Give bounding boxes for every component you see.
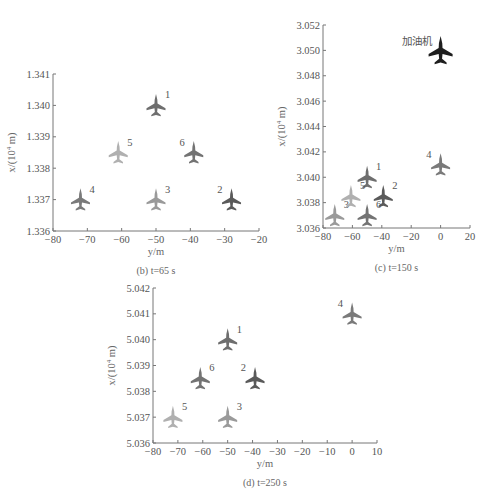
aircraft-label: 1 [376, 161, 381, 172]
aircraft-icon [429, 36, 453, 64]
aircraft-icon [246, 367, 265, 389]
y-tick-label: 3.042 [296, 146, 320, 157]
aircraft-icon [163, 406, 182, 428]
x-tick-label: −70 [79, 234, 95, 245]
x-axis-label: y/m [388, 243, 404, 254]
aircraft-label: 1 [237, 324, 242, 335]
x-tick-label: −50 [219, 446, 235, 457]
chart-panel-b: 1.3361.3371.3381.3391.3401.341−80−70−60−… [5, 69, 267, 278]
aircraft-icon [147, 94, 166, 116]
y-tick-label: 3.040 [296, 172, 320, 183]
chart-panel-d: 5.0365.0375.0385.0395.0405.0415.042−80−7… [105, 283, 382, 490]
aircraft-icon [358, 204, 377, 226]
x-tick-label: 0 [349, 446, 354, 457]
x-tick-label: −80 [45, 234, 61, 245]
x-tick-label: −20 [294, 446, 310, 457]
figure-canvas: 1.3361.3371.3381.3391.3401.341−80−70−60−… [0, 0, 489, 499]
x-tick-label: −70 [170, 446, 186, 457]
y-tick-label: 3.048 [296, 70, 320, 81]
aircraft-label: 5 [127, 137, 132, 148]
x-tick-label: −10 [319, 446, 335, 457]
aircraft-label: 5 [360, 180, 365, 191]
panel-caption: (b) t=65 s [137, 265, 176, 277]
aircraft-icon [218, 406, 237, 428]
aircraft-label: 4 [89, 184, 95, 195]
aircraft-icon [218, 328, 237, 350]
y-tick-label: 5.037 [126, 412, 150, 423]
aircraft-label: 5 [182, 401, 187, 412]
x-tick-label: −60 [344, 231, 360, 242]
aircraft-label: 加油机 [402, 35, 433, 47]
y-tick-label: 5.039 [126, 360, 150, 371]
x-tick-label: −60 [113, 234, 129, 245]
aircraft-label: 4 [426, 149, 432, 160]
y-tick-label: 5.041 [126, 308, 150, 319]
aircraft-label: 2 [241, 362, 246, 373]
x-tick-label: 0 [438, 231, 443, 242]
y-axis-label: x/(104 m) [5, 132, 18, 172]
y-tick-label: 1.338 [26, 163, 50, 174]
y-tick-label: 1.340 [26, 100, 50, 111]
x-tick-label: 10 [372, 446, 383, 457]
x-tick-label: −40 [244, 446, 260, 457]
aircraft-icon [71, 188, 90, 210]
x-tick-label: −80 [145, 446, 161, 457]
aircraft-icon [147, 188, 166, 210]
panel-caption: (d) t=250 s [243, 477, 287, 489]
aircraft-icon [184, 141, 203, 163]
aircraft-label: 6 [209, 362, 214, 373]
aircraft-label: 6 [376, 199, 381, 210]
panel-caption: (c) t=150 s [375, 262, 419, 274]
aircraft-icon [431, 153, 450, 175]
y-tick-label: 1.339 [26, 131, 50, 142]
y-tick-label: 5.040 [126, 334, 150, 345]
x-tick-label: −50 [148, 234, 164, 245]
x-tick-label: −20 [403, 231, 419, 242]
y-axis-label: x/(104 m) [275, 106, 288, 146]
x-tick-label: −60 [195, 446, 211, 457]
x-tick-label: −40 [374, 231, 390, 242]
aircraft-icon [343, 302, 362, 324]
x-tick-label: −20 [251, 234, 267, 245]
chart-panel-c: 3.0363.0383.0403.0423.0443.0463.0483.050… [275, 20, 475, 275]
aircraft-icon [191, 367, 210, 389]
y-tick-label: 3.050 [296, 45, 320, 56]
x-tick-label: −30 [216, 234, 232, 245]
y-tick-label: 3.044 [296, 121, 320, 132]
aircraft-icon [109, 141, 128, 163]
x-axis-label: y/m [148, 246, 164, 257]
aircraft-label: 2 [392, 180, 397, 191]
aircraft-label: 3 [237, 401, 242, 412]
aircraft-label: 6 [180, 137, 185, 148]
aircraft-label: 2 [217, 184, 222, 195]
aircraft-icon [222, 188, 241, 210]
y-tick-label: 5.042 [126, 283, 150, 294]
aircraft-label: 3 [165, 184, 170, 195]
y-axis-label: x/(104 m) [105, 345, 118, 385]
x-tick-label: 20 [465, 231, 476, 242]
y-tick-label: 3.046 [296, 96, 320, 107]
aircraft-label: 1 [165, 89, 170, 100]
y-tick-label: 5.038 [126, 386, 150, 397]
y-tick-label: 3.038 [296, 197, 320, 208]
y-tick-label: 3.052 [296, 20, 320, 31]
y-tick-label: 1.341 [26, 69, 50, 80]
x-tick-label: −30 [269, 446, 285, 457]
x-tick-label: −40 [182, 234, 198, 245]
x-axis-label: y/m [257, 458, 273, 469]
y-tick-label: 1.337 [26, 194, 50, 205]
aircraft-icon [325, 204, 344, 226]
x-tick-label: −80 [315, 231, 331, 242]
aircraft-label: 4 [338, 298, 344, 309]
